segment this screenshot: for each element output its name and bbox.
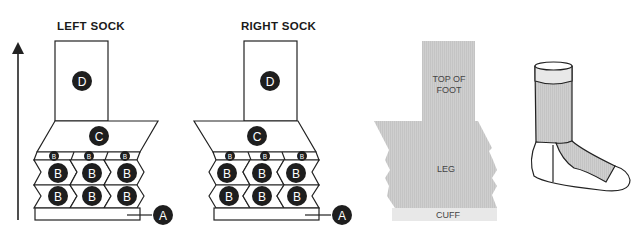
- pattern-key: TOP OF FOOT LEG CUFF: [374, 41, 497, 221]
- sock-diagram: D C B B B B B B B B B A: [0, 0, 643, 235]
- badge-a: A: [338, 209, 346, 223]
- badge-c: C: [253, 130, 262, 144]
- top-of-foot-label: TOP OF: [432, 74, 466, 84]
- knitting-direction-arrow-icon: [12, 42, 24, 220]
- cuff-label: CUFF: [436, 210, 460, 220]
- badge-c: C: [95, 130, 104, 144]
- badge-b-small: B: [228, 153, 232, 160]
- badge-b: B: [123, 167, 131, 181]
- badge-b: B: [223, 167, 231, 181]
- badge-b-small: B: [52, 153, 56, 160]
- badge-b-small: B: [123, 153, 127, 160]
- top-of-foot-label: FOOT: [437, 85, 462, 95]
- badge-d: D: [266, 75, 275, 89]
- badge-b: B: [225, 190, 233, 204]
- badge-a: A: [159, 209, 167, 223]
- badge-b: B: [88, 190, 96, 204]
- badge-b: B: [123, 190, 131, 204]
- badge-b: B: [292, 167, 300, 181]
- badge-d: D: [78, 75, 87, 89]
- badge-b: B: [258, 190, 266, 204]
- sock-illustration: [531, 62, 630, 191]
- leg-panel: [374, 121, 497, 208]
- badge-b: B: [88, 167, 96, 181]
- right-sock-cuff: [214, 208, 319, 220]
- badge-b-small: B: [300, 153, 304, 160]
- badge-b: B: [258, 167, 266, 181]
- badge-b: B: [293, 190, 301, 204]
- leg-label: LEG: [437, 164, 455, 174]
- badge-b-small: B: [87, 153, 91, 160]
- badge-b: B: [54, 190, 62, 204]
- badge-b: B: [54, 167, 62, 181]
- badge-b-small: B: [263, 153, 267, 160]
- left-sock-cuff: [35, 208, 140, 220]
